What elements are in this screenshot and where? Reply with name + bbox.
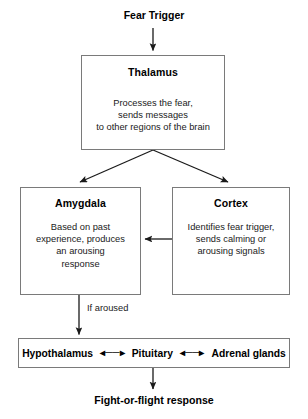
node-cortex: Cortex Identifies fear trigger, sends ca… <box>172 187 290 295</box>
node-thalamus-body-line-1: Processes the fear, <box>82 97 224 109</box>
node-cortex-body-line-2: sends calming or <box>173 233 289 245</box>
arrow-thalamus-to-amygdala <box>80 150 153 182</box>
double-arrow-icon-2: ◂──▸ <box>180 346 205 358</box>
node-amygdala-body-line-2: experience, produces <box>21 233 140 245</box>
node-thalamus-body-line-3: to other regions of the brain <box>82 121 224 133</box>
fight-or-flight-response-label: Fight-or-flight response <box>0 394 308 406</box>
node-amygdala-body-line-1: Based on past <box>21 221 140 233</box>
node-thalamus: Thalamus Processes the fear, sends messa… <box>81 55 225 150</box>
fear-response-diagram: Fear Trigger Thalamus Processes the fear… <box>0 0 308 419</box>
node-cortex-body: Identifies fear trigger, sends calming o… <box>173 221 289 258</box>
node-thalamus-body-line-2: sends messages <box>82 109 224 121</box>
fear-trigger-label: Fear Trigger <box>0 9 308 21</box>
hpa-term-hypothalamus: Hypothalamus <box>22 348 93 359</box>
node-amygdala-body: Based on past experience, produces an ar… <box>21 221 140 270</box>
hpa-term-adrenal-glands: Adrenal glands <box>211 348 285 359</box>
node-amygdala-title: Amygdala <box>21 197 140 209</box>
hpa-term-pituitary: Pituitary <box>132 348 173 359</box>
node-amygdala: Amygdala Based on past experience, produ… <box>20 187 141 295</box>
node-cortex-title: Cortex <box>173 197 289 209</box>
if-aroused-label: If aroused <box>87 303 128 313</box>
node-cortex-body-line-3: arousing signals <box>173 245 289 257</box>
node-cortex-body-line-1: Identifies fear trigger, <box>173 221 289 233</box>
node-hpa-axis: Hypothalamus ◂──▸ Pituitary ◂──▸ Adrenal… <box>18 338 290 368</box>
node-thalamus-body: Processes the fear, sends messages to ot… <box>82 97 224 134</box>
node-amygdala-body-line-3: an arousing <box>21 245 140 257</box>
double-arrow-icon-1: ◂──▸ <box>100 346 125 358</box>
node-amygdala-body-line-4: response <box>21 258 140 270</box>
node-thalamus-title: Thalamus <box>82 66 224 78</box>
arrow-thalamus-to-cortex <box>153 150 228 182</box>
